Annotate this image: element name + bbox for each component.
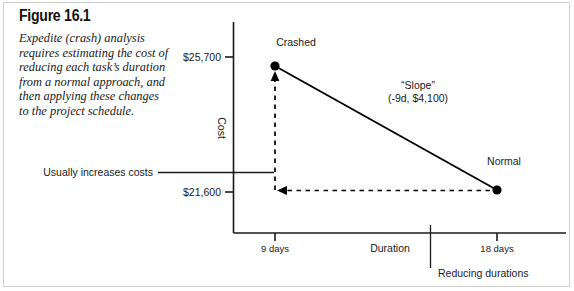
data-point-crashed [270,61,279,70]
data-point-normal [492,185,501,194]
y-tick-label-21600: $21,600 [183,186,221,198]
y-axis-title: Cost [216,117,228,139]
annotation-usually-increases-costs: Usually increases costs [43,166,153,178]
data-point-label-crashed: Crashed [276,36,316,48]
slope-annotation-value: (-9d, $4,100) [388,92,448,104]
expedite-crash-analysis-chart: $25,700 $21,600 9 days 18 days Cost Dura… [0,0,574,291]
y-tick-label-25700: $25,700 [183,51,221,63]
x-axis-title: Duration [370,242,410,254]
x-tick-label-9-days: 9 days [261,243,289,254]
dashed-cost-increase-arrowhead [271,71,280,81]
dashed-duration-reduction-arrowhead [277,186,287,195]
annotation-reducing-durations: Reducing durations [438,267,528,279]
figure-container: Figure 16.1 Expedite (crash) analysis re… [0,0,574,291]
data-point-label-normal: Normal [487,155,521,167]
x-tick-label-18-days: 18 days [480,243,514,254]
crash-normal-slope-line [275,66,497,190]
slope-annotation-title: “Slope” [401,79,435,91]
